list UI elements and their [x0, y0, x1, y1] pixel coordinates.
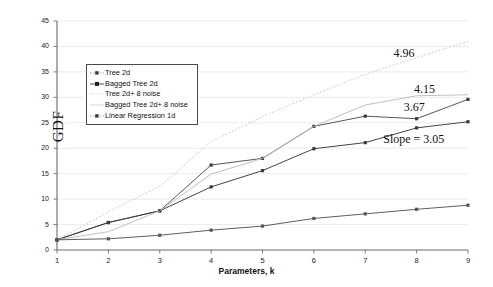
x-tick-label: 4 — [203, 256, 219, 265]
legend-marker-bagged-tree-2d-8-noise — [89, 100, 105, 110]
annotation-3.67: 3.67 — [404, 100, 425, 115]
chart-container: GDF Parameters, k 051015202530354045 123… — [0, 0, 493, 287]
data-point-marker — [466, 98, 469, 101]
y-axis-title: GDF — [50, 67, 67, 187]
y-tick-label: 10 — [27, 195, 49, 202]
x-tick-label: 1 — [49, 256, 65, 265]
y-tick-label: 40 — [27, 42, 49, 49]
y-tick-label: 35 — [27, 68, 49, 75]
y-tick-label: 5 — [27, 221, 49, 228]
x-tick-label: 2 — [100, 256, 116, 265]
data-point-marker — [364, 141, 367, 144]
x-tick-label: 5 — [255, 256, 271, 265]
series-line-linear-regression-1d — [57, 205, 468, 240]
legend-label-bagged-tree-2d-8-noise: Bagged Tree 2d+ 8 noise — [105, 100, 188, 110]
legend-label-tree-2d: Tree 2d — [105, 68, 130, 78]
legend-marker-tree-2d — [89, 68, 105, 78]
data-point-marker — [210, 229, 213, 232]
data-point-marker — [261, 224, 264, 227]
y-tick-label: 15 — [27, 170, 49, 177]
data-point-marker — [415, 126, 418, 129]
legend-label-linear-regression-1d: Linear Regression 1d — [105, 111, 175, 121]
annotation-4.15: 4.15 — [414, 82, 435, 97]
x-tick-label: 8 — [409, 256, 425, 265]
y-tick-label: 20 — [27, 144, 49, 151]
y-tick-label: 45 — [27, 17, 49, 24]
legend-item-linear-regression-1d[interactable]: Linear Regression 1d — [89, 110, 194, 121]
legend-item-tree-2d[interactable]: Tree 2d — [89, 68, 194, 79]
legend-label-tree-2d-8-noise: Tree 2d+ 8 noise — [105, 89, 160, 99]
data-point-marker — [466, 204, 469, 207]
y-tick-label: 30 — [27, 93, 49, 100]
data-point-marker — [210, 163, 213, 166]
data-point-marker — [107, 237, 110, 240]
legend-marker-linear-regression-1d — [89, 111, 105, 121]
data-point-marker — [466, 120, 469, 123]
annotation-4.96: 4.96 — [394, 46, 415, 61]
data-point-marker — [210, 185, 213, 188]
data-point-marker — [415, 208, 418, 211]
x-tick-label: 3 — [152, 256, 168, 265]
data-point-marker — [55, 238, 58, 241]
x-tick-label: 9 — [460, 256, 476, 265]
annotation-slope-3.05: Slope = 3.05 — [383, 132, 444, 147]
legend-item-tree-2d-8-noise[interactable]: Tree 2d+ 8 noise — [89, 89, 194, 100]
data-point-marker — [364, 212, 367, 215]
data-point-marker — [107, 221, 110, 224]
legend-label-bagged-tree-2d: Bagged Tree 2d — [105, 79, 158, 89]
legend-item-bagged-tree-2d-8-noise[interactable]: Bagged Tree 2d+ 8 noise — [89, 100, 194, 111]
x-tick-label: 6 — [306, 256, 322, 265]
data-point-marker — [158, 234, 161, 237]
legend-item-bagged-tree-2d[interactable]: Bagged Tree 2d — [89, 79, 194, 90]
chart-legend[interactable]: Tree 2d Bagged Tree 2d Tree 2d+ 8 noise — [86, 64, 198, 125]
y-tick-label: 25 — [27, 119, 49, 126]
legend-marker-bagged-tree-2d — [89, 79, 105, 89]
data-point-marker — [312, 217, 315, 220]
data-point-marker — [364, 115, 367, 118]
data-point-marker — [415, 117, 418, 120]
x-axis-title: Parameters, k — [0, 266, 493, 276]
legend-marker-tree-2d-8-noise — [89, 89, 105, 99]
data-point-marker — [312, 147, 315, 150]
data-point-marker — [261, 169, 264, 172]
x-tick-label: 7 — [357, 256, 373, 265]
y-tick-label: 0 — [27, 246, 49, 253]
